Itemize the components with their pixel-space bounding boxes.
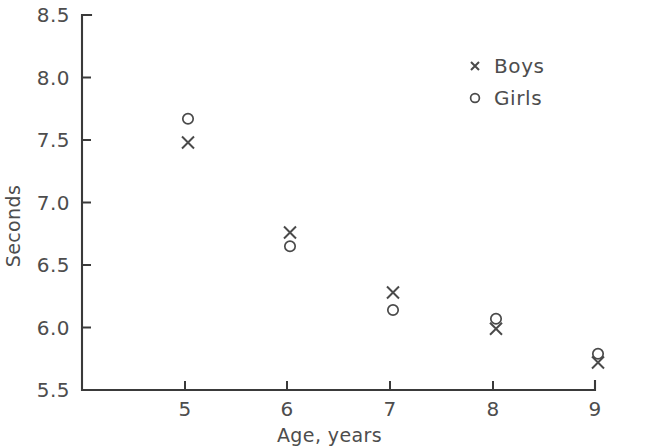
data-point-girls (491, 314, 501, 324)
scatter-plot-figure: 5.56.06.57.07.58.08.5 56789 Seconds Age,… (0, 0, 659, 446)
data-points (182, 114, 604, 369)
x-tick-label: 9 (588, 397, 601, 421)
legend-item-girls: Girls (462, 82, 545, 114)
legend-item-boys: Boys (462, 50, 545, 82)
y-tick-label: 6.0 (0, 316, 70, 340)
x-tick-label: 5 (178, 397, 191, 421)
chart-canvas (0, 0, 659, 446)
y-tick-label: 7.5 (0, 128, 70, 152)
legend-label-boys: Boys (494, 54, 545, 78)
x-tick-label: 7 (383, 397, 396, 421)
data-point-girls (388, 305, 398, 315)
x-marker-icon (462, 58, 488, 74)
legend-label-girls: Girls (494, 86, 542, 110)
data-point-girls (593, 349, 603, 359)
x-tick-label: 6 (280, 397, 293, 421)
x-tick-label: 8 (486, 397, 499, 421)
data-point-girls (183, 114, 193, 124)
circle-marker-icon (462, 90, 488, 106)
y-tick-label: 8.0 (0, 66, 70, 90)
data-point-girls (285, 241, 295, 251)
y-tick-label: 5.5 (0, 378, 70, 402)
data-point-boys (387, 287, 399, 299)
x-axis-title: Age, years (0, 424, 659, 446)
y-axis-title: Seconds (2, 166, 24, 286)
data-point-boys (182, 137, 194, 149)
y-tick-label: 8.5 (0, 3, 70, 27)
plot-area: 5.56.06.57.07.58.08.5 56789 Seconds Age,… (0, 0, 659, 446)
chart-legend: Boys Girls (462, 50, 545, 114)
data-point-boys (284, 227, 296, 239)
